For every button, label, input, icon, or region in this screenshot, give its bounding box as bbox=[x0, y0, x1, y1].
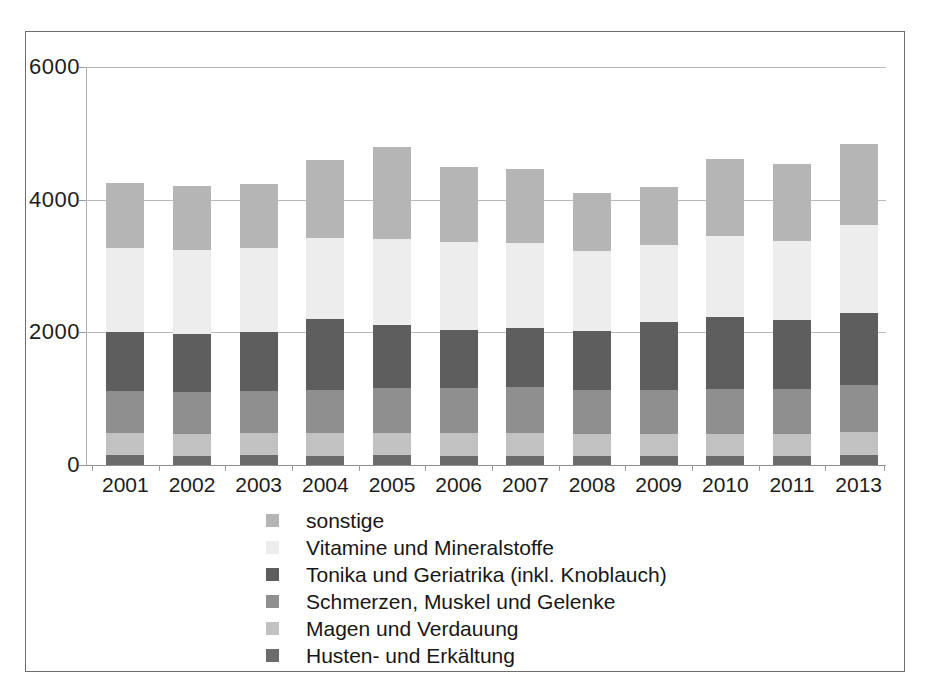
bar-segment[interactable] bbox=[173, 250, 211, 334]
bar-stack[interactable] bbox=[106, 183, 144, 465]
bar-segment[interactable] bbox=[306, 390, 344, 433]
bar-segment[interactable] bbox=[173, 434, 211, 456]
x-axis-label-2003: 2003 bbox=[224, 473, 294, 497]
bar-segment[interactable] bbox=[173, 392, 211, 434]
bar-segment[interactable] bbox=[840, 385, 878, 431]
bar-segment[interactable] bbox=[640, 456, 678, 465]
bar-stack[interactable] bbox=[640, 187, 678, 465]
bar-segment[interactable] bbox=[773, 434, 811, 456]
bar-segment[interactable] bbox=[173, 456, 211, 465]
bar-segment[interactable] bbox=[506, 169, 544, 243]
legend-item[interactable]: Tonika und Geriatrika (inkl. Knoblauch) bbox=[266, 561, 667, 588]
bar-segment[interactable] bbox=[106, 332, 144, 392]
bar-stack[interactable] bbox=[506, 169, 544, 465]
bar-segment[interactable] bbox=[440, 242, 478, 330]
legend-item[interactable]: Vitamine und Mineralstoffe bbox=[266, 534, 667, 561]
bar-segment[interactable] bbox=[440, 456, 478, 465]
x-tick bbox=[692, 465, 693, 471]
bar-segment[interactable] bbox=[306, 160, 344, 238]
bar-segment[interactable] bbox=[706, 434, 744, 456]
bar-segment[interactable] bbox=[373, 147, 411, 239]
bar-segment[interactable] bbox=[573, 251, 611, 331]
bar-segment[interactable] bbox=[640, 434, 678, 456]
bar-segment[interactable] bbox=[173, 186, 211, 250]
bar-segment[interactable] bbox=[106, 455, 144, 465]
bar-segment[interactable] bbox=[440, 330, 478, 388]
bar-segment[interactable] bbox=[240, 184, 278, 248]
bar-segment[interactable] bbox=[173, 334, 211, 392]
bar-segment[interactable] bbox=[840, 432, 878, 455]
bar-segment[interactable] bbox=[573, 390, 611, 434]
bar-stack[interactable] bbox=[706, 159, 744, 465]
bar-segment[interactable] bbox=[840, 144, 878, 225]
bar-segment[interactable] bbox=[106, 248, 144, 332]
bar-stack[interactable] bbox=[240, 184, 278, 465]
bar-stack[interactable] bbox=[440, 167, 478, 465]
bar-segment[interactable] bbox=[640, 390, 678, 434]
legend-item[interactable]: sonstige bbox=[266, 507, 667, 534]
bar-segment[interactable] bbox=[306, 433, 344, 456]
bar-segment[interactable] bbox=[573, 434, 611, 457]
bar-segment[interactable] bbox=[706, 317, 744, 389]
bar-segment[interactable] bbox=[573, 193, 611, 251]
bar-segment[interactable] bbox=[440, 167, 478, 243]
bar-stack[interactable] bbox=[306, 160, 344, 465]
bar-segment[interactable] bbox=[506, 328, 544, 387]
bar-segment[interactable] bbox=[573, 456, 611, 465]
bar-segment[interactable] bbox=[773, 320, 811, 389]
legend-item[interactable]: Schmerzen, Muskel und Gelenke bbox=[266, 588, 667, 615]
bar-segment[interactable] bbox=[106, 391, 144, 433]
bar-segment[interactable] bbox=[773, 389, 811, 434]
bar-stack[interactable] bbox=[573, 193, 611, 465]
x-tick bbox=[359, 465, 360, 471]
bar-segment[interactable] bbox=[373, 433, 411, 456]
bar-segment[interactable] bbox=[440, 433, 478, 456]
bar-stack[interactable] bbox=[773, 164, 811, 465]
bar-segment[interactable] bbox=[773, 241, 811, 320]
bar-segment[interactable] bbox=[840, 455, 878, 465]
bar-segment[interactable] bbox=[773, 164, 811, 241]
bar-segment[interactable] bbox=[306, 238, 344, 319]
bar-segment[interactable] bbox=[706, 159, 744, 236]
bar-segment[interactable] bbox=[240, 433, 278, 456]
bar-segment[interactable] bbox=[506, 243, 544, 329]
bar-segment[interactable] bbox=[106, 183, 144, 248]
bar-segment[interactable] bbox=[240, 248, 278, 332]
legend-swatch-icon bbox=[266, 541, 279, 554]
bar-segment[interactable] bbox=[640, 322, 678, 390]
bar-segment[interactable] bbox=[506, 387, 544, 432]
bar-segment[interactable] bbox=[706, 389, 744, 434]
legend-item[interactable]: Husten- und Erkältung bbox=[266, 642, 667, 669]
bar-segment[interactable] bbox=[373, 388, 411, 432]
bar-segment[interactable] bbox=[240, 391, 278, 433]
bar-segment[interactable] bbox=[773, 456, 811, 465]
bar-segment[interactable] bbox=[240, 455, 278, 465]
bar-segment[interactable] bbox=[240, 332, 278, 391]
legend-item[interactable]: Magen und Verdauung bbox=[266, 615, 667, 642]
bar-segment[interactable] bbox=[640, 187, 678, 245]
bar-segment[interactable] bbox=[506, 433, 544, 456]
x-tick bbox=[759, 465, 760, 471]
bar-segment[interactable] bbox=[706, 236, 744, 317]
bar-segment[interactable] bbox=[840, 225, 878, 313]
bar-segment[interactable] bbox=[706, 456, 744, 465]
bar-segment[interactable] bbox=[306, 456, 344, 465]
bar-stack[interactable] bbox=[840, 144, 878, 465]
legend-swatch-icon bbox=[266, 622, 279, 635]
bar-segment[interactable] bbox=[373, 325, 411, 388]
bar-segment[interactable] bbox=[640, 245, 678, 322]
bar-segment[interactable] bbox=[373, 239, 411, 325]
bar-segment[interactable] bbox=[306, 319, 344, 390]
bar-segment[interactable] bbox=[440, 388, 478, 432]
x-axis-label-2013: 2013 bbox=[824, 473, 894, 497]
bar-stack[interactable] bbox=[373, 147, 411, 465]
bar-segment[interactable] bbox=[506, 456, 544, 465]
bar-stack[interactable] bbox=[173, 186, 211, 465]
bar-segment[interactable] bbox=[106, 433, 144, 455]
x-axis-label-2001: 2001 bbox=[90, 473, 160, 497]
bar-segment[interactable] bbox=[573, 331, 611, 390]
legend-label: Magen und Verdauung bbox=[306, 617, 519, 641]
legend-swatch-icon bbox=[266, 649, 279, 662]
bar-segment[interactable] bbox=[373, 455, 411, 465]
bar-segment[interactable] bbox=[840, 313, 878, 385]
